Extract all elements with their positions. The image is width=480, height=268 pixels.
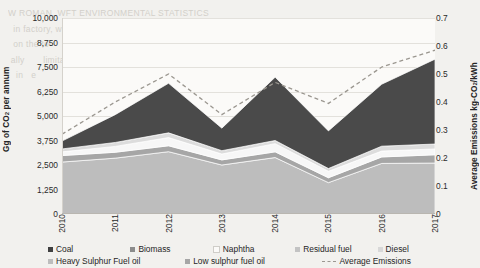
legend-swatch xyxy=(378,247,383,252)
primary-y-axis-ticks: 01,2502,5003,7505,0006,2507,5008,75010,0… xyxy=(14,0,58,268)
legend-swatch xyxy=(48,247,53,252)
primary-y-tick-label: 5,000 xyxy=(37,111,58,121)
x-tick-label: 2010 xyxy=(57,214,67,233)
primary-y-tick-label: 6,250 xyxy=(37,87,58,97)
secondary-y-tick-label: 0.7 xyxy=(436,13,448,23)
legend-item: Average Emissions xyxy=(322,256,459,266)
legend-swatch xyxy=(295,247,300,252)
secondary-y-axis-title: Average Emissions kg-CO2/kWh xyxy=(470,46,479,206)
secondary-y-tick-label: 0.2 xyxy=(436,153,448,163)
primary-y-tick-label: 10,000 xyxy=(32,13,58,23)
legend-item: Heavy Sulphur Fuel oil xyxy=(48,256,185,266)
x-tick-label: 2015 xyxy=(323,214,333,233)
legend-item: Naphtha xyxy=(213,244,295,254)
legend-item: Residual fuel xyxy=(295,244,377,254)
y-axis-line xyxy=(62,18,63,214)
x-tick-label: 2014 xyxy=(270,214,280,233)
legend-row-primary: CoalBiomassNaphthaResidual fuelDiesel xyxy=(48,244,460,254)
legend-swatch xyxy=(48,259,53,264)
primary-y-axis-title: Gg of CO2 per annum xyxy=(2,34,11,184)
legend-swatch xyxy=(130,247,135,252)
legend-label: Biomass xyxy=(138,244,170,254)
legend-label: Low sulphur fuel oil xyxy=(193,256,265,266)
legend-item: Coal xyxy=(48,244,130,254)
chart-legend: CoalBiomassNaphthaResidual fuelDiesel He… xyxy=(48,244,460,266)
secondary-y-tick-label: 0.3 xyxy=(436,125,448,135)
x-tick-label: 2017 xyxy=(430,214,440,233)
legend-label: Coal xyxy=(56,244,73,254)
chart-figure: Gg of CO2 per annum Average Emissions kg… xyxy=(0,0,480,268)
legend-label: Naphtha xyxy=(223,244,255,254)
legend-label: Residual fuel xyxy=(303,244,351,254)
primary-y-tick-label: 3,750 xyxy=(37,136,58,146)
x-axis-ticks: 20102011201220132014201520162017 xyxy=(62,214,435,244)
legend-swatch xyxy=(185,259,190,264)
secondary-y-tick-label: 0.6 xyxy=(436,41,448,51)
stacked-area-series xyxy=(62,18,435,214)
legend-item: Diesel xyxy=(378,244,460,254)
secondary-y-axis-ticks: 00.10.20.30.40.50.60.7 xyxy=(436,0,466,268)
x-tick-label: 2011 xyxy=(110,214,120,232)
primary-y-tick-label: 7,500 xyxy=(37,62,58,72)
x-tick-label: 2016 xyxy=(377,214,387,233)
legend-label: Diesel xyxy=(386,244,409,254)
legend-label: Heavy Sulphur Fuel oil xyxy=(56,256,140,266)
legend-item: Biomass xyxy=(130,244,212,254)
legend-row-secondary: Heavy Sulphur Fuel oilLow sulphur fuel o… xyxy=(48,256,460,266)
x-tick-label: 2013 xyxy=(217,214,227,233)
plot-area xyxy=(62,18,435,214)
primary-y-tick-label: 8,750 xyxy=(37,38,58,48)
legend-label: Average Emissions xyxy=(339,256,411,266)
legend-dash-marker xyxy=(322,261,336,262)
primary-y-tick-label: 1,250 xyxy=(37,185,58,195)
legend-swatch xyxy=(213,246,220,253)
legend-item: Low sulphur fuel oil xyxy=(185,256,322,266)
x-tick-label: 2012 xyxy=(164,214,174,233)
secondary-y-tick-label: 0.1 xyxy=(436,181,448,191)
primary-y-tick-label: 2,500 xyxy=(37,160,58,170)
secondary-y-tick-label: 0.5 xyxy=(436,69,448,79)
secondary-y-tick-label: 0.4 xyxy=(436,97,448,107)
